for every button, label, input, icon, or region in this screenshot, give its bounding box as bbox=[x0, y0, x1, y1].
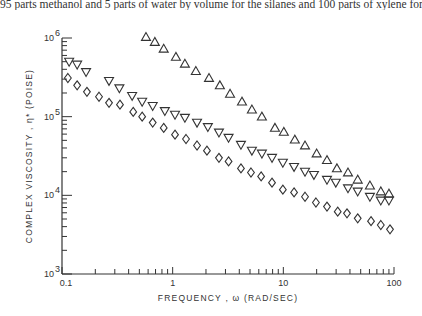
triangle-up-marker bbox=[150, 37, 159, 45]
triangle-down-marker bbox=[82, 69, 91, 77]
triangle-down-marker bbox=[278, 159, 287, 167]
diamond-marker bbox=[172, 130, 179, 139]
triangle-down-marker bbox=[214, 129, 223, 137]
y-axis-title: COMPLEX VISCOSITY , η* (POISE) bbox=[24, 69, 34, 243]
triangle-up-marker bbox=[226, 89, 235, 97]
triangle-up-marker bbox=[237, 97, 246, 105]
y-tick-exponent: 5 bbox=[55, 107, 60, 117]
diamond-marker bbox=[160, 123, 167, 132]
x-tick-label: 100 bbox=[386, 278, 401, 288]
data-markers bbox=[64, 32, 393, 233]
y-tick-base: 10 bbox=[44, 112, 54, 122]
triangle-down-marker bbox=[365, 193, 374, 201]
diamond-marker bbox=[64, 74, 71, 83]
diamond-marker bbox=[248, 168, 255, 177]
triangle-down-marker bbox=[290, 164, 299, 172]
y-tick-exponent: 4 bbox=[55, 185, 60, 195]
triangle-up-marker bbox=[257, 112, 266, 120]
triangle-down-marker bbox=[115, 85, 124, 93]
triangle-up-marker bbox=[159, 44, 168, 52]
y-tick-label: 103 bbox=[44, 264, 60, 279]
x-axis-title: FREQUENCY , ω (RAD/SEC) bbox=[158, 293, 298, 303]
diamond-marker bbox=[324, 202, 331, 211]
triangle-down-marker bbox=[343, 185, 352, 193]
triangle-up-marker bbox=[376, 187, 385, 195]
triangle-down-marker bbox=[309, 171, 318, 179]
diamond-marker bbox=[130, 107, 137, 116]
triangle-up-marker bbox=[332, 164, 341, 172]
y-tick-label: 105 bbox=[44, 107, 60, 122]
diamond-marker bbox=[84, 87, 91, 96]
diamond-marker bbox=[74, 81, 81, 90]
diamond-marker bbox=[334, 207, 341, 216]
diamond-marker bbox=[313, 198, 320, 207]
viscosity-frequency-chart: 0.1110100103104105106 FREQUENCY , ω (RAD… bbox=[0, 0, 422, 316]
triangle-down-marker bbox=[138, 98, 147, 106]
triangle-down-marker bbox=[73, 61, 82, 69]
diamond-marker bbox=[117, 100, 124, 109]
y-tick-exponent: 6 bbox=[55, 28, 60, 38]
triangle-down-marker bbox=[128, 92, 137, 100]
y-tick-label: 106 bbox=[44, 28, 60, 43]
triangle-down-marker bbox=[65, 58, 74, 66]
diamond-marker bbox=[354, 214, 361, 223]
y-tick-label: 104 bbox=[44, 185, 60, 200]
triangle-down-marker bbox=[160, 108, 169, 116]
diamond-marker bbox=[238, 164, 245, 173]
triangle-up-series bbox=[141, 32, 393, 197]
triangle-down-marker bbox=[105, 78, 114, 86]
triangle-down-marker bbox=[376, 197, 385, 205]
y-tick-base: 10 bbox=[44, 269, 54, 279]
x-tick-label: 1 bbox=[170, 278, 175, 288]
diamond-marker bbox=[225, 157, 232, 166]
triangle-up-marker bbox=[279, 127, 288, 135]
diamond-marker bbox=[269, 178, 276, 187]
triangle-up-marker bbox=[301, 141, 310, 149]
triangle-up-marker bbox=[191, 67, 200, 75]
triangle-down-marker bbox=[171, 111, 180, 119]
diamond-marker bbox=[194, 141, 201, 150]
diamond-marker bbox=[387, 225, 394, 234]
triangle-down-marker bbox=[268, 154, 277, 162]
triangle-down-marker bbox=[353, 188, 362, 196]
diamond-marker bbox=[183, 135, 190, 144]
triangle-up-marker bbox=[353, 175, 362, 183]
triangle-up-marker bbox=[215, 81, 224, 89]
triangle-down-marker bbox=[148, 103, 157, 111]
triangle-down-marker bbox=[236, 141, 245, 149]
triangle-up-marker bbox=[384, 189, 393, 197]
y-tick-base: 10 bbox=[44, 190, 54, 200]
axes bbox=[62, 38, 394, 274]
diamond-marker bbox=[258, 172, 265, 181]
triangle-down-marker bbox=[180, 114, 189, 122]
triangle-down-marker bbox=[257, 150, 266, 158]
y-tick-exponent: 3 bbox=[55, 264, 60, 274]
triangle-down-marker bbox=[247, 147, 256, 155]
triangle-up-marker bbox=[247, 105, 256, 113]
triangle-down-marker bbox=[193, 119, 202, 127]
diamond-marker bbox=[377, 220, 384, 229]
triangle-down-marker bbox=[301, 168, 310, 176]
diamond-marker bbox=[216, 153, 223, 162]
triangle-up-marker bbox=[322, 156, 331, 164]
y-tick-base: 10 bbox=[44, 33, 54, 43]
triangle-up-marker bbox=[180, 59, 189, 67]
diamond-marker bbox=[139, 112, 146, 121]
triangle-up-marker bbox=[171, 52, 180, 60]
triangle-down-marker bbox=[331, 179, 340, 187]
triangle-up-marker bbox=[343, 168, 352, 176]
x-tick-label: 10 bbox=[278, 278, 288, 288]
triangle-down-marker bbox=[203, 124, 212, 132]
diamond-marker bbox=[106, 98, 113, 107]
triangle-up-marker bbox=[270, 123, 279, 131]
diamond-marker bbox=[368, 217, 375, 226]
x-tick-label: 0.1 bbox=[60, 278, 73, 288]
diamond-marker bbox=[291, 188, 298, 197]
diamond-marker bbox=[204, 146, 211, 155]
triangle-up-marker bbox=[312, 149, 321, 157]
diamond-marker bbox=[302, 192, 309, 201]
triangle-down-series bbox=[65, 58, 394, 205]
diamond-marker bbox=[149, 118, 156, 127]
triangle-up-marker bbox=[365, 181, 374, 189]
triangle-down-marker bbox=[322, 176, 331, 184]
